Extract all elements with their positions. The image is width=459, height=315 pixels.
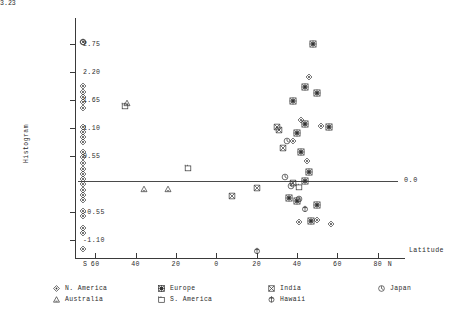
x-tick-label: 40 bbox=[131, 261, 140, 268]
data-point-s-america bbox=[122, 103, 129, 110]
star-box-icon bbox=[157, 284, 166, 293]
y-tick-mark bbox=[70, 72, 76, 73]
data-point-n-america bbox=[80, 229, 87, 236]
data-point-n-america bbox=[314, 216, 321, 223]
y-tick-mark bbox=[70, 240, 76, 241]
x-tick-label: 60 bbox=[333, 261, 342, 268]
x-tick-mark bbox=[337, 253, 338, 258]
y-axis-top-label: 3.23 bbox=[0, 0, 459, 7]
x-tick-mark bbox=[176, 253, 177, 258]
circle-dot-icon bbox=[377, 284, 386, 293]
scatter-plot: 3.23 0.0 Latitude Histogram 2.752.201.65… bbox=[0, 0, 459, 315]
data-point-india bbox=[229, 193, 236, 200]
triangle-icon bbox=[52, 295, 61, 304]
legend-item-s-america[interactable]: S. America bbox=[157, 295, 267, 304]
x-axis-north-label: N bbox=[388, 261, 392, 268]
x-tick-mark bbox=[136, 253, 137, 258]
circle-cross-icon bbox=[267, 295, 276, 304]
data-point-n-america bbox=[306, 73, 313, 80]
y-axis-title: Histogram bbox=[23, 114, 30, 174]
data-point-india bbox=[253, 185, 260, 192]
x-tick-label: 0 bbox=[214, 261, 218, 268]
data-point-europe bbox=[314, 90, 321, 97]
x-tick-label: 80 bbox=[373, 261, 382, 268]
diamond-dot-icon bbox=[52, 284, 61, 293]
legend-item-europe[interactable]: Europe bbox=[157, 284, 267, 293]
legend-label: N. America bbox=[65, 285, 107, 292]
data-point-s-america bbox=[185, 164, 192, 171]
x-tick-mark bbox=[216, 253, 217, 258]
legend-label: Japan bbox=[390, 285, 411, 292]
legend-item-india[interactable]: India bbox=[267, 284, 377, 293]
data-point-n-america bbox=[296, 218, 303, 225]
data-point-australia bbox=[140, 186, 147, 193]
x-tick-mark bbox=[378, 253, 379, 258]
x-axis-line bbox=[75, 258, 405, 259]
square-tab-icon bbox=[157, 295, 166, 304]
zero-line-label: 0.0 bbox=[404, 176, 418, 184]
data-point-europe bbox=[308, 217, 315, 224]
data-point-n-america bbox=[80, 212, 87, 219]
legend-item-n-america[interactable]: N. America bbox=[52, 284, 157, 293]
legend-item-japan[interactable]: Japan bbox=[377, 284, 457, 293]
data-point-n-america bbox=[290, 138, 297, 145]
data-point-japan bbox=[283, 138, 290, 145]
legend-item-australia[interactable]: Australia bbox=[52, 295, 157, 304]
data-point-india bbox=[279, 145, 286, 152]
y-axis-line bbox=[75, 18, 76, 258]
data-point-australia bbox=[164, 186, 171, 193]
zero-reference-line bbox=[78, 181, 398, 182]
legend-label: Europe bbox=[170, 285, 195, 292]
legend-label: S. America bbox=[170, 296, 212, 303]
data-point-n-america bbox=[80, 105, 87, 112]
y-tick-mark bbox=[70, 128, 76, 129]
y-tick-mark bbox=[70, 212, 76, 213]
data-point-europe bbox=[294, 129, 301, 136]
y-tick-mark bbox=[70, 156, 76, 157]
data-point-europe bbox=[298, 149, 305, 156]
x-tick-label: 40 bbox=[293, 261, 302, 268]
data-point-japan bbox=[281, 173, 288, 180]
data-point-india bbox=[275, 126, 282, 133]
bowtie-icon bbox=[267, 284, 276, 293]
data-point-n-america bbox=[80, 139, 87, 146]
data-point-japan bbox=[288, 182, 295, 189]
data-point-europe bbox=[302, 120, 309, 127]
legend-label: Australia bbox=[65, 296, 103, 303]
data-point-n-america bbox=[318, 122, 325, 129]
x-tick-mark bbox=[95, 253, 96, 258]
y-tick-label: -1.10 bbox=[83, 237, 105, 244]
x-axis-south-label: S bbox=[83, 261, 87, 268]
data-point-s-america bbox=[296, 184, 303, 191]
data-point-japan bbox=[80, 38, 87, 45]
data-point-europe bbox=[285, 195, 292, 202]
legend-item-hawaii[interactable]: Hawaii bbox=[267, 295, 377, 304]
x-tick-label: 20 bbox=[172, 261, 181, 268]
data-point-n-america bbox=[328, 220, 335, 227]
data-point-europe bbox=[326, 123, 333, 130]
data-point-hawaii bbox=[302, 206, 309, 213]
y-tick-mark bbox=[70, 44, 76, 45]
legend-label: Hawaii bbox=[280, 296, 305, 303]
legend-label: India bbox=[280, 285, 301, 292]
y-tick-label: 2.20 bbox=[83, 68, 100, 75]
data-point-n-america bbox=[304, 158, 311, 165]
data-point-japan bbox=[296, 196, 303, 203]
data-point-n-america bbox=[80, 246, 87, 253]
data-point-europe bbox=[302, 177, 309, 184]
data-point-hawaii bbox=[253, 248, 260, 255]
data-point-europe bbox=[306, 168, 313, 175]
data-point-n-america bbox=[80, 197, 87, 204]
x-tick-label: 60 bbox=[91, 261, 100, 268]
x-tick-label: 20 bbox=[252, 261, 261, 268]
legend: N. America Europe India Japan Australia … bbox=[52, 283, 452, 305]
data-point-europe bbox=[302, 83, 309, 90]
data-point-europe bbox=[310, 41, 317, 48]
x-axis-title: Latitude bbox=[409, 247, 444, 254]
data-point-europe bbox=[314, 202, 321, 209]
x-tick-mark bbox=[297, 253, 298, 258]
data-point-europe bbox=[290, 98, 297, 105]
y-tick-mark bbox=[70, 100, 76, 101]
